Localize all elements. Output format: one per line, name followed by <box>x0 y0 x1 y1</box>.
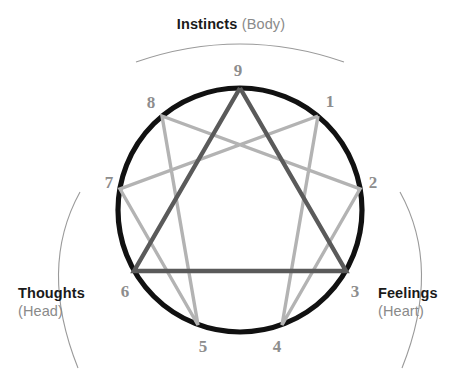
point-number-8: 8 <box>147 93 156 112</box>
group-brackets <box>58 44 421 368</box>
bracket-arc-feelings <box>400 192 422 368</box>
point-number-5: 5 <box>199 337 208 356</box>
point-number-6: 6 <box>121 282 130 301</box>
enneagram-circle <box>118 88 362 332</box>
point-number-9: 9 <box>234 61 243 80</box>
point-number-3: 3 <box>351 282 360 301</box>
bracket-arc-instincts <box>136 44 344 62</box>
point-number-7: 7 <box>105 173 114 192</box>
thoughts-primary-label: Thoughts <box>18 285 85 303</box>
instincts-secondary-label: (Body) <box>242 16 285 32</box>
feelings-secondary-label: (Heart) <box>378 303 438 321</box>
hexad-figure <box>120 116 360 325</box>
bracket-arc-thoughts <box>58 192 80 368</box>
group-label-instincts: Instincts (Body) <box>0 14 462 34</box>
point-number-2: 2 <box>369 173 378 192</box>
group-label-thoughts: Thoughts (Head) <box>18 285 85 320</box>
instincts-primary-label: Instincts <box>177 16 238 32</box>
enneagram-figure: 912345678 Instincts (Body) Thoughts (Hea… <box>0 0 462 385</box>
point-number-1: 1 <box>326 92 335 111</box>
point-number-group: 912345678 <box>105 61 378 356</box>
feelings-primary-label: Feelings <box>378 285 438 303</box>
enneagram-canvas: 912345678 <box>0 0 462 385</box>
group-label-feelings: Feelings (Heart) <box>378 285 438 320</box>
thoughts-secondary-label: (Head) <box>18 303 85 321</box>
point-number-4: 4 <box>273 337 282 356</box>
